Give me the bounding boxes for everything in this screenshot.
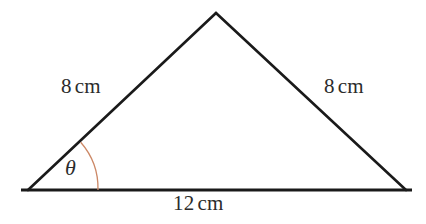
label-base-unit: cm — [197, 191, 223, 215]
label-side-left-value: 8 — [61, 74, 72, 98]
label-side-left: 8cm — [61, 76, 101, 97]
triangle-side-left — [28, 13, 216, 190]
label-side-right-unit: cm — [338, 74, 364, 98]
label-base-value: 12 — [173, 191, 194, 215]
label-angle-theta: θ — [65, 157, 76, 179]
triangle-side-right — [216, 13, 406, 190]
label-side-right-value: 8 — [324, 74, 335, 98]
label-side-left-unit: cm — [75, 74, 101, 98]
label-side-right: 8cm — [324, 76, 364, 97]
triangle-outline — [21, 13, 412, 190]
label-base: 12cm — [173, 193, 223, 214]
angle-arc — [81, 142, 98, 190]
geometry-figure: 8cm 8cm 12cm θ — [0, 0, 426, 224]
